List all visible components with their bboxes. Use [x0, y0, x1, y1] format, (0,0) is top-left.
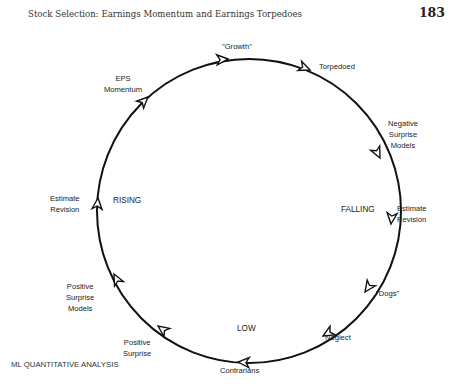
arrow-estimate-revision-falling-icon	[386, 213, 397, 225]
label-contrarians: Contrarians	[220, 365, 259, 376]
phase-rising: RISING	[113, 196, 141, 205]
arrow-positive-surprise-icon	[155, 322, 170, 337]
footer-publisher: ML QUANTITATIVE ANALYSIS	[11, 360, 119, 369]
label-negative-surprise-models: Negative Surprise Models	[388, 118, 418, 151]
arrow-dogs-icon	[361, 280, 376, 295]
phase-falling: FALLING	[341, 205, 375, 214]
label-estimate-revision-rising: Estimate Revision	[50, 193, 80, 215]
arrow-growth-icon	[217, 54, 229, 65]
label-estimate-revision-falling: Estimate Revision	[397, 203, 427, 225]
label-torpedoed: Torpedoed	[319, 61, 355, 72]
label-positive-surprise: Positive Surprise	[123, 337, 151, 359]
label-dogs: "Dogs"	[376, 288, 399, 299]
phase-low: LOW	[237, 324, 256, 333]
label-neglect: Neglect	[325, 332, 351, 343]
label-growth: "Growth"	[222, 41, 252, 52]
arrow-negative-surprise-icon	[371, 146, 385, 160]
label-positive-surprise-models: Positive Surprise Models	[66, 281, 94, 314]
label-eps-momentum: EPS Momentum	[104, 73, 142, 95]
